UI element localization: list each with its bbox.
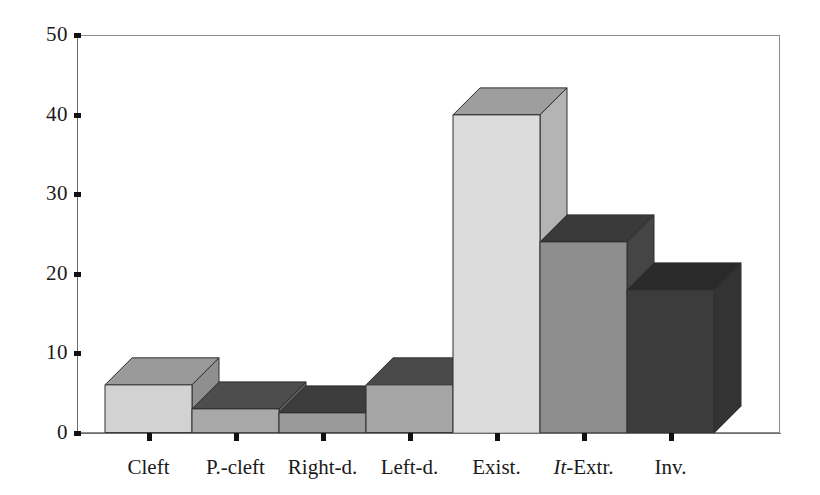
x-axis-tick [495, 433, 500, 441]
bar-chart-figure: 01020304050 CleftP.-cleftRight-d.Left-d.… [0, 0, 820, 495]
bar-front-face [540, 242, 627, 433]
bar-front-face [453, 115, 540, 433]
bar-front-face [105, 385, 192, 433]
x-axis-tick-label: Left-d. [381, 455, 439, 479]
y-axis-tick [74, 113, 81, 118]
y-axis-tick [74, 272, 81, 277]
x-axis-tick-label: P.-cleft [206, 455, 265, 479]
x-axis-tick-label: Right-d. [288, 455, 357, 479]
bar-front-face [279, 413, 366, 433]
x-axis-tick-label: Cleft [128, 455, 170, 479]
x-axis-tick-label: Inv. [655, 455, 687, 479]
y-axis-tick [74, 33, 81, 38]
bar-front-face [366, 385, 453, 433]
x-axis-tick [669, 433, 674, 441]
bar-inv [627, 264, 745, 435]
bar-front-face [627, 290, 714, 433]
x-axis-tick-label: Exist. [472, 455, 520, 479]
x-axis-line [77, 433, 781, 434]
x-axis-tick [321, 433, 326, 441]
x-axis-tick-label: It-Extr. [553, 455, 613, 479]
y-axis-tick-label: 0 [8, 422, 68, 443]
y-axis-tick [74, 192, 81, 197]
bar-front-face [192, 409, 279, 433]
y-axis-tick-label: 50 [8, 24, 68, 45]
y-axis-tick [74, 351, 81, 356]
x-axis-tick [408, 433, 413, 441]
y-axis-tick-label: 40 [8, 104, 68, 125]
bar-side-face [714, 263, 741, 433]
y-axis-line [77, 35, 78, 434]
x-axis-tick [147, 433, 152, 441]
bar-3d-faces [627, 264, 745, 435]
y-axis-tick-label: 10 [8, 342, 68, 363]
y-axis-tick-label: 20 [8, 263, 68, 284]
x-axis-tick [234, 433, 239, 441]
y-axis-tick-label: 30 [8, 183, 68, 204]
y-axis-tick [74, 431, 81, 436]
x-axis-tick [582, 433, 587, 441]
